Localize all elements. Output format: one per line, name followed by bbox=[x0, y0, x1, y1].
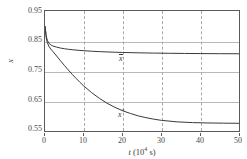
series-annotation-x-star-superscript: * bbox=[122, 108, 125, 114]
series-annotation-x-bar: x bbox=[119, 54, 123, 63]
y-tick-label: 0.85 bbox=[16, 36, 42, 44]
chart-figure: x 0.95 0.85 0.75 0.65 0.55 x x* bbox=[0, 0, 247, 159]
y-tick-label: 0.95 bbox=[16, 7, 42, 15]
x-axis-title-symbol: t bbox=[128, 147, 130, 157]
x-axis-title-unit-base: (10 bbox=[133, 147, 144, 157]
series-path-x-star bbox=[45, 26, 239, 123]
y-tick-label: 0.65 bbox=[16, 96, 42, 104]
curve-paths bbox=[45, 11, 239, 131]
series-path-x-bar bbox=[45, 26, 239, 54]
x-axis-title: t (104 s) bbox=[44, 144, 240, 157]
series-annotation-x-bar-symbol: x bbox=[119, 54, 123, 63]
x-axis-title-unit-tail: s) bbox=[147, 147, 155, 157]
plot-area: x x* bbox=[44, 10, 240, 132]
series-annotation-x-star: x* bbox=[118, 107, 125, 119]
y-tick-label: 0.55 bbox=[16, 125, 42, 133]
y-tick-label: 0.75 bbox=[16, 66, 42, 74]
